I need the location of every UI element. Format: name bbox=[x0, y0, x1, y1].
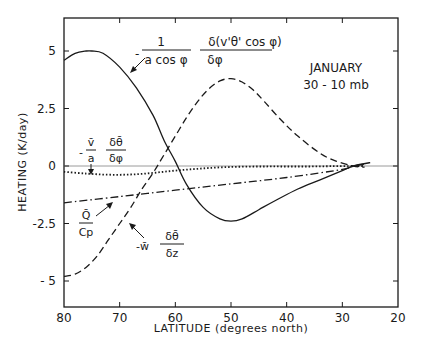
svg-text:1: 1 bbox=[157, 35, 165, 49]
svg-text:v̄: v̄ bbox=[88, 136, 95, 149]
heating-chart: 80706050403020 52.50-2.5- 5 LATITUDE (de… bbox=[0, 0, 421, 356]
svg-text:Q̄: Q̄ bbox=[82, 209, 91, 222]
svg-text:-: - bbox=[79, 146, 83, 159]
svg-text:a: a bbox=[88, 152, 95, 165]
svg-text:-: - bbox=[135, 47, 139, 61]
y-tick-label: 0 bbox=[48, 159, 56, 173]
svg-text:δφ: δφ bbox=[109, 152, 123, 165]
x-tick-label: 20 bbox=[390, 311, 405, 325]
vertical-advection-label: -w̄ δθ̄ δz bbox=[129, 223, 184, 260]
y-tick-label: - 5 bbox=[40, 274, 56, 288]
svg-text:δz: δz bbox=[166, 247, 179, 260]
svg-text:δθ̄: δθ̄ bbox=[109, 136, 123, 149]
svg-text:δφ: δφ bbox=[207, 53, 222, 67]
svg-text:δθ̄: δθ̄ bbox=[165, 230, 179, 243]
eddy-flux-label: - 1 a cos φ δ(v'θ' cos φ) δφ bbox=[130, 35, 282, 73]
y-axis-title: HEATING (K/day) bbox=[16, 112, 29, 211]
x-tick-label: 70 bbox=[112, 311, 127, 325]
diabatic-heating-label: Q̄ Cp bbox=[79, 202, 113, 239]
x-tick-label: 30 bbox=[335, 311, 350, 325]
y-tick-label: 5 bbox=[48, 44, 56, 58]
diabatic-heating-curve bbox=[64, 164, 365, 203]
vertical-advection-curve bbox=[64, 79, 365, 277]
svg-text:δ(v'θ' cos φ): δ(v'θ' cos φ) bbox=[208, 35, 281, 49]
svg-text:Cp: Cp bbox=[79, 226, 94, 239]
x-axis-title: LATITUDE (degrees north) bbox=[154, 322, 309, 335]
pressure-layer-annotation: 30 - 10 mb bbox=[303, 78, 369, 92]
month-annotation: JANUARY bbox=[309, 61, 363, 75]
svg-text:-w̄: -w̄ bbox=[136, 240, 149, 253]
x-tick-label: 80 bbox=[56, 311, 71, 325]
y-tick-label: 2.5 bbox=[37, 102, 56, 116]
meridional-advection-curve bbox=[64, 166, 365, 175]
svg-text:a cos φ: a cos φ bbox=[144, 53, 187, 67]
y-tick-label: -2.5 bbox=[33, 217, 56, 231]
meridional-advection-label: - v̄ a δθ̄ δφ bbox=[79, 136, 126, 175]
